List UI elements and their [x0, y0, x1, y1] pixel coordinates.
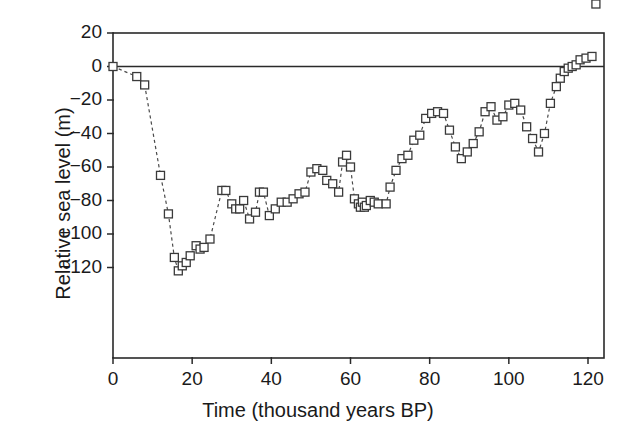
x-tick-label: 40	[231, 368, 311, 390]
data-point-marker	[186, 252, 194, 260]
data-point-marker	[347, 163, 355, 171]
x-tick-label: 120	[548, 368, 628, 390]
data-point-marker	[404, 151, 412, 159]
data-point-marker	[335, 188, 343, 196]
data-point-marker	[170, 253, 178, 261]
data-point-marker	[535, 148, 543, 156]
data-point-marker	[382, 200, 390, 208]
x-tick-label: 80	[390, 368, 470, 390]
y-tick-label: −80	[0, 189, 102, 211]
data-point-marker	[236, 205, 244, 213]
series-data-markers	[109, 0, 600, 275]
data-point-marker	[529, 135, 537, 143]
data-point-marker	[499, 113, 507, 121]
data-point-marker	[329, 180, 337, 188]
data-point-marker	[445, 126, 453, 134]
data-point-marker	[416, 131, 424, 139]
data-point-marker	[475, 128, 483, 136]
data-point-marker	[164, 210, 172, 218]
data-point-marker	[523, 123, 531, 131]
data-point-marker	[301, 188, 309, 196]
x-tick-label: 100	[469, 368, 549, 390]
data-point-marker	[343, 151, 351, 159]
data-point-marker	[487, 103, 495, 111]
data-point-marker	[552, 83, 560, 91]
data-point-marker	[392, 166, 400, 174]
data-point-marker	[240, 197, 248, 205]
x-tick-label: 0	[73, 368, 153, 390]
y-tick-label: −120	[0, 256, 102, 278]
data-point-marker	[319, 166, 327, 174]
data-point-marker	[133, 73, 141, 81]
data-point-marker	[540, 130, 548, 138]
data-point-marker	[469, 140, 477, 148]
data-point-marker	[259, 188, 267, 196]
data-point-marker	[222, 186, 230, 194]
y-tick-label: −40	[0, 122, 102, 144]
data-point-marker	[451, 143, 459, 151]
data-point-marker	[517, 106, 525, 114]
data-point-marker	[252, 208, 260, 216]
x-axis-title: Time (thousand years BP)	[0, 399, 636, 422]
x-tick-label: 60	[311, 368, 391, 390]
data-point-marker	[157, 171, 165, 179]
x-tick-label: 20	[152, 368, 232, 390]
data-point-marker	[588, 52, 596, 60]
y-tick-label: −60	[0, 155, 102, 177]
data-point-marker	[440, 109, 448, 117]
data-point-marker	[592, 0, 600, 8]
data-point-marker	[546, 99, 554, 107]
y-tick-label: −20	[0, 88, 102, 110]
data-point-marker	[200, 243, 208, 251]
y-tick-label: 20	[0, 21, 102, 43]
data-point-marker	[463, 148, 471, 156]
sea-level-chart-figure: Relative sea level (m) Time (thousand ye…	[0, 0, 636, 438]
data-point-marker	[386, 183, 394, 191]
axis-ticks	[107, 33, 588, 364]
data-point-marker	[141, 81, 149, 89]
y-tick-label: −100	[0, 222, 102, 244]
data-point-marker	[374, 200, 382, 208]
data-point-marker	[206, 235, 214, 243]
y-tick-label: 0	[0, 55, 102, 77]
data-point-marker	[109, 63, 117, 71]
